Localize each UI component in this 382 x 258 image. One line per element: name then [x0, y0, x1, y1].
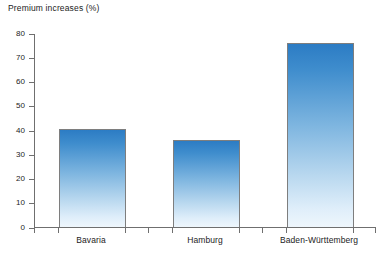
x-axis-tick-mark — [353, 228, 354, 233]
y-axis-tick-label: 80 — [16, 29, 25, 39]
bar — [173, 140, 240, 227]
x-axis-tick-mark — [34, 228, 35, 233]
y-axis-tick-label: 50 — [16, 101, 25, 111]
y-axis-tick-label: 70 — [16, 53, 25, 63]
x-axis-labels: BavariaHamburgBaden-Württemberg — [34, 235, 376, 251]
x-axis-category-label: Hamburg — [148, 235, 262, 245]
bar — [287, 43, 354, 227]
x-axis-tick-mark — [58, 228, 59, 233]
y-axis-tick-label: 40 — [16, 126, 25, 136]
y-axis-tick-label: 30 — [16, 150, 25, 160]
x-axis-tick-mark — [375, 228, 376, 233]
x-axis-tick-mark — [148, 228, 149, 233]
y-axis-tick-label: 20 — [16, 174, 25, 184]
x-axis-tick-mark — [262, 228, 263, 233]
bar — [59, 129, 126, 227]
x-axis-category-label: Bavaria — [34, 235, 148, 245]
plot-area — [34, 34, 376, 228]
x-axis-category-label: Baden-Württemberg — [262, 235, 376, 245]
x-axis-tick-mark — [286, 228, 287, 233]
x-axis-tick-marks — [34, 228, 376, 234]
y-axis-tick-label: 0 — [21, 223, 25, 233]
y-axis: 01020304050607080 — [0, 34, 34, 228]
x-axis-tick-mark — [172, 228, 173, 233]
x-axis-tick-mark — [125, 228, 126, 233]
y-axis-tick-label: 60 — [16, 77, 25, 87]
bar-chart-figure: Premium increases (%) 01020304050607080 … — [0, 0, 382, 258]
chart-title: Premium increases (%) — [8, 3, 99, 13]
y-axis-tick-label: 10 — [16, 198, 25, 208]
x-axis-tick-mark — [239, 228, 240, 233]
